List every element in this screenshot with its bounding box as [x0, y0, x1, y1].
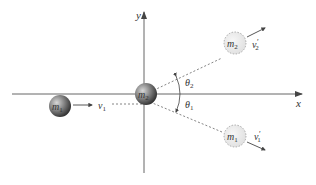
- angle-theta1-label: θ1: [185, 99, 194, 112]
- particle-m1-final: m1: [224, 125, 246, 147]
- x-axis-label: x: [295, 97, 301, 109]
- svg-text:v′2: v′2: [252, 38, 259, 52]
- particle-m2-initial: m2: [135, 83, 157, 105]
- angle-theta2-label: θ2: [185, 77, 194, 90]
- particle-m2-final: m2: [224, 32, 246, 54]
- svg-text:v1: v1: [98, 100, 106, 113]
- y-axis-label: y: [135, 9, 141, 21]
- svg-text:v′1: v′1: [254, 130, 261, 144]
- particle-m1-initial: m1: [49, 95, 71, 117]
- velocity-v2-prime: v′2: [247, 28, 265, 52]
- velocity-v1-prime: v′1: [247, 130, 265, 150]
- velocity-v1: v1: [73, 100, 106, 113]
- trajectory-lines: [112, 58, 222, 132]
- collision-diagram: x y m1 v1 m2 θ2 θ1: [0, 0, 316, 185]
